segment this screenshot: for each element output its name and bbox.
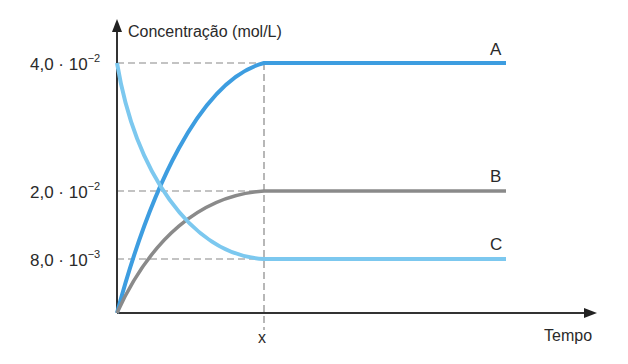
reference-lines bbox=[117, 63, 264, 330]
y-axis-label: Concentração (mol/L) bbox=[128, 23, 282, 40]
y-tick-label-8: 8,0 · 10−3 bbox=[30, 248, 100, 270]
y-tick-label-40: 4,0 · 10−2 bbox=[30, 52, 100, 74]
series-a-label: A bbox=[490, 40, 502, 59]
y-tick-label-20: 2,0 · 10−2 bbox=[30, 180, 100, 202]
x-marker-label: x bbox=[258, 329, 266, 346]
series-a-curve bbox=[117, 63, 506, 313]
concentration-chart: Concentração (mol/L) Tempo x 4,0 · 10−2 … bbox=[0, 0, 628, 364]
series-c-label: C bbox=[490, 235, 502, 254]
x-axis-arrow-icon bbox=[584, 308, 597, 318]
series-b-label: B bbox=[490, 167, 501, 186]
y-axis-arrow-icon bbox=[112, 19, 122, 32]
x-axis-label: Tempo bbox=[544, 327, 592, 344]
